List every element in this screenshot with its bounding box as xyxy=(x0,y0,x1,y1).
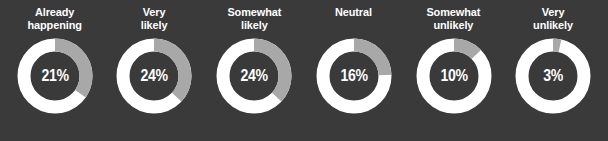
donut-label: Very likely xyxy=(141,6,168,34)
donut-ring-arc xyxy=(254,45,285,97)
donut-cell: Somewhat likely 24% xyxy=(206,6,303,141)
donut-ring-graphic xyxy=(17,38,93,114)
donut-ring-background xyxy=(522,45,584,107)
donut-label: Somewhat likely xyxy=(227,6,281,34)
donut-label: Neutral xyxy=(335,6,372,34)
donut-ring-graphic xyxy=(216,38,292,114)
donut-ring-graphic xyxy=(116,38,192,114)
donut-label: Very unlikely xyxy=(534,6,574,34)
donut-chart: 24% xyxy=(116,38,192,114)
donut-ring-graphic xyxy=(416,38,492,114)
donut-chart: 10% xyxy=(416,38,492,114)
donut-chart: 24% xyxy=(216,38,292,114)
donut-chart: 16% xyxy=(316,38,392,114)
donut-cell: Somewhat unlikely 10% xyxy=(405,6,502,141)
donut-cell: Neutral 16% xyxy=(305,6,402,141)
donut-cell: Very unlikely 3% xyxy=(505,6,602,141)
donut-chart-row: Already happening 21% Very likely 24% So… xyxy=(0,0,608,141)
donut-ring-arc xyxy=(154,45,185,97)
donut-ring-graphic xyxy=(316,38,392,114)
donut-ring-arc xyxy=(454,45,476,54)
donut-chart: 3% xyxy=(515,38,591,114)
donut-ring-graphic xyxy=(515,38,591,114)
donut-label: Already happening xyxy=(27,6,81,34)
donut-cell: Already happening 21% xyxy=(6,6,103,141)
donut-ring-arc xyxy=(553,45,560,46)
donut-cell: Very likely 24% xyxy=(106,6,203,141)
donut-ring-arc xyxy=(55,45,86,94)
donut-chart: 21% xyxy=(17,38,93,114)
donut-label: Somewhat unlikely xyxy=(427,6,481,34)
donut-ring-arc xyxy=(354,45,385,75)
